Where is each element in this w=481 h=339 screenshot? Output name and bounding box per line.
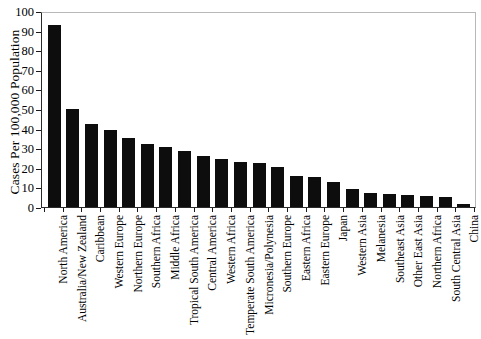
x-tick-mark <box>100 208 101 212</box>
bar <box>159 147 172 207</box>
bar-slot <box>82 13 101 207</box>
x-label-slot: Central America <box>194 213 213 337</box>
bar-slot <box>306 13 325 207</box>
x-label-slot: Western Europe <box>100 213 119 337</box>
bar <box>439 197 452 207</box>
x-label-slot: Eastern Africa <box>287 213 306 337</box>
bar-slot <box>212 13 231 207</box>
bar <box>401 195 414 207</box>
bar-slot <box>231 13 250 207</box>
x-label-slot: Eastern Europe <box>306 213 325 337</box>
bar-slot <box>194 13 213 207</box>
x-label-slot: Temperate South America <box>231 213 250 337</box>
x-label-slot: Northern Africa <box>418 213 437 337</box>
x-label-slot: Japan <box>325 213 344 337</box>
x-tick-mark <box>287 208 288 212</box>
plot-area <box>41 12 476 208</box>
x-tick-mark <box>474 208 475 212</box>
x-label-slot: Western Asia <box>343 213 362 337</box>
bar-slot <box>268 13 287 207</box>
bar <box>346 189 359 207</box>
x-axis-category-labels: North AmericaAustralia/New ZealandCaribb… <box>41 213 476 337</box>
bar <box>66 109 79 207</box>
bar-slot <box>157 13 176 207</box>
y-tick-label: 20 <box>22 163 35 176</box>
bar <box>253 163 266 207</box>
x-label-slot: South Central Asia <box>437 213 456 337</box>
bar-slot <box>454 13 473 207</box>
bar-slot <box>343 13 362 207</box>
y-tick-label: 90 <box>22 25 35 38</box>
x-label-slot: Australia/New Zealand <box>63 213 82 337</box>
bar-slot <box>436 13 455 207</box>
x-label-slot: Southern Africa <box>138 213 157 337</box>
x-tick-mark <box>399 208 400 212</box>
bar <box>383 194 396 207</box>
x-tick-mark <box>212 208 213 212</box>
x-tick-mark <box>306 208 307 212</box>
x-label-slot: Western Africa <box>212 213 231 337</box>
y-tick-label: 40 <box>22 123 35 136</box>
bar-slot <box>175 13 194 207</box>
x-tick-mark <box>268 208 269 212</box>
x-label-slot: North America <box>44 213 63 337</box>
bar-slot <box>380 13 399 207</box>
y-tick-label: 50 <box>22 104 35 117</box>
x-tick-mark <box>418 208 419 212</box>
x-tick-mark <box>362 208 363 212</box>
bar <box>215 159 228 207</box>
x-label-slot: China <box>455 213 474 337</box>
bar-slot <box>119 13 138 207</box>
bar-slot <box>287 13 306 207</box>
bar <box>308 177 321 207</box>
x-tick-mark <box>437 208 438 212</box>
x-tick-mark <box>455 208 456 212</box>
x-tick-mark <box>119 208 120 212</box>
bar-slot <box>324 13 343 207</box>
x-tick-mark <box>324 208 325 212</box>
bar <box>234 162 247 207</box>
x-tick-mark <box>250 208 251 212</box>
bar <box>48 25 61 207</box>
bar-slot <box>361 13 380 207</box>
x-tick-mark <box>194 208 195 212</box>
bar <box>327 182 340 207</box>
x-tick-mark <box>175 208 176 212</box>
y-tick-label: 70 <box>22 65 35 78</box>
bar-slot <box>45 13 64 207</box>
bar <box>420 196 433 207</box>
x-tick-mark <box>63 208 64 212</box>
x-label-slot: Other East Asia <box>399 213 418 337</box>
x-label-slot: Southeast Asia <box>381 213 400 337</box>
y-tick-label: 60 <box>22 84 35 97</box>
bar <box>178 151 191 207</box>
x-tick-mark <box>156 208 157 212</box>
x-tick-label: China <box>469 215 481 242</box>
bar <box>457 204 470 207</box>
x-tick-mark <box>231 208 232 212</box>
y-tick-label: 10 <box>22 182 35 195</box>
y-axis-tick-labels: 0102030405060708090100 <box>0 0 41 215</box>
bar <box>122 138 135 207</box>
x-label-slot: Northern Europe <box>119 213 138 337</box>
x-tick-mark <box>44 208 45 212</box>
x-label-slot: Melanesia <box>362 213 381 337</box>
y-tick-label: 80 <box>22 45 35 58</box>
bar <box>271 167 284 207</box>
bar <box>85 124 98 207</box>
y-tick-label: 30 <box>22 143 35 156</box>
bar-slot <box>101 13 120 207</box>
bar <box>364 193 377 207</box>
bar <box>197 156 210 207</box>
bar <box>290 176 303 207</box>
x-label-slot: Caribbean <box>81 213 100 337</box>
bar-slot <box>64 13 83 207</box>
x-tick-mark <box>381 208 382 212</box>
x-label-slot: Tropical South America <box>175 213 194 337</box>
x-label-slot: Southern Europe <box>268 213 287 337</box>
bar <box>141 144 154 207</box>
bar-series <box>42 13 475 207</box>
y-tick-label: 0 <box>28 202 34 215</box>
x-label-slot: Micronesia/Polynesia <box>250 213 269 337</box>
